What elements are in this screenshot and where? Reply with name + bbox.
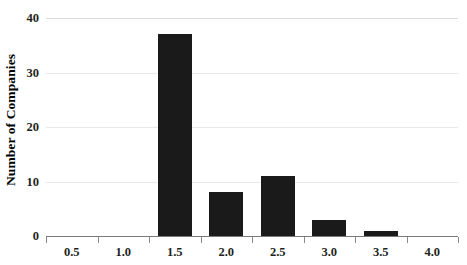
x-axis-tick-label: 2.5 (270, 245, 286, 260)
x-axis-tick-mark (149, 237, 150, 243)
x-axis-tick-mark (458, 237, 459, 243)
plot-area (46, 18, 458, 236)
bar-chart: Number of Companies 010203040 0.51.01.52… (0, 0, 467, 265)
gridline (46, 182, 458, 183)
x-axis-tick-label: 1.5 (167, 245, 183, 260)
x-axis-tick-label: 3.0 (321, 245, 337, 260)
x-axis-tick-label: 1.0 (115, 245, 131, 260)
bar (158, 34, 192, 236)
x-axis-tick-mark (407, 237, 408, 243)
gridline (46, 18, 458, 19)
x-axis-tick-mark (355, 237, 356, 243)
bar (312, 220, 346, 236)
x-axis-tick-mark (252, 237, 253, 243)
y-axis-tick-labels: 010203040 (18, 0, 44, 265)
x-axis-tick-mark (304, 237, 305, 243)
gridline (46, 73, 458, 74)
x-axis-tick-mark (201, 237, 202, 243)
x-axis-tick-label: 2.0 (218, 245, 234, 260)
x-axis-tick-mark (46, 237, 47, 243)
y-axis-tick-label: 40 (18, 11, 44, 26)
y-axis-tick-label: 30 (18, 65, 44, 80)
x-axis-tick-label: 4.0 (424, 245, 440, 260)
x-axis-tick-label: 3.5 (373, 245, 389, 260)
y-axis-title-text: Number of Companies (3, 54, 19, 186)
y-axis-tick-label: 10 (18, 174, 44, 189)
y-axis-tick-label: 0 (18, 229, 44, 244)
x-axis-tick-label: 0.5 (64, 245, 80, 260)
gridline (46, 127, 458, 128)
y-axis-tick-label: 20 (18, 120, 44, 135)
bar (209, 192, 243, 236)
bar (261, 176, 295, 236)
x-axis-tick-mark (98, 237, 99, 243)
